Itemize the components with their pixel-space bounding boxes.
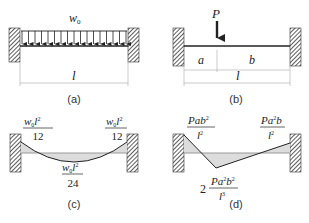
panel-a-fixed-beam-uniform-load: w0 l (a): [9, 11, 139, 105]
left-moment-label: Pab2 l2: [187, 114, 215, 141]
distributed-load-arrows: [22, 31, 126, 44]
panel-c-moment-diagram-uniform: w0l2 12 w0l2 12 w0l2 24 (c): [10, 115, 138, 210]
svg-text:2: 2: [200, 182, 206, 196]
mid-moment-label: w0l2 24: [62, 161, 83, 189]
svg-text:12: 12: [33, 130, 44, 142]
svg-text:l3: l3: [219, 190, 225, 202]
right-moment-label: w0l2 12: [105, 115, 127, 142]
segment-label-a: a: [198, 53, 204, 67]
svg-text:l2: l2: [197, 129, 203, 141]
left-wall-support: [173, 134, 184, 172]
load-label-w0: w0: [69, 11, 81, 26]
caption-c: (c): [68, 198, 81, 210]
left-wall-support: [10, 134, 21, 172]
svg-text:Pa2b2: Pa2b2: [210, 175, 235, 187]
caption-a: (a): [67, 93, 80, 105]
svg-text:w0l2: w0l2: [24, 115, 40, 128]
panel-d-moment-diagram-point: Pab2 l2 Pa2b l2 2 Pa2b2 l3 (d): [173, 114, 301, 210]
left-wall-support: [173, 28, 184, 66]
caption-d: (d): [229, 198, 242, 210]
span-label-l: l: [72, 68, 76, 83]
svg-text:w0l2: w0l2: [62, 161, 78, 174]
svg-text:Pa2b: Pa2b: [260, 114, 282, 126]
left-wall-support: [9, 28, 20, 62]
left-moment-label: w0l2 12: [23, 115, 53, 142]
caption-b: (b): [229, 93, 242, 105]
right-wall-support: [127, 134, 138, 172]
segment-label-b: b: [249, 53, 255, 67]
load-label-p: P: [211, 6, 220, 21]
svg-text:12: 12: [112, 130, 123, 142]
right-moment-label: Pa2b l2: [260, 114, 285, 141]
right-wall-support: [290, 134, 301, 172]
right-wall-support: [290, 28, 301, 66]
span-label-l: l: [236, 68, 240, 83]
svg-text:24: 24: [68, 177, 80, 189]
beam-diagrams: w0 l (a) P a b l (b): [0, 0, 309, 223]
svg-text:l2: l2: [268, 129, 274, 141]
right-wall-support: [128, 28, 139, 62]
svg-text:Pab2: Pab2: [187, 114, 209, 126]
panel-b-fixed-beam-point-load: P a b l (b): [173, 6, 301, 105]
svg-text:w0l2: w0l2: [106, 115, 122, 128]
